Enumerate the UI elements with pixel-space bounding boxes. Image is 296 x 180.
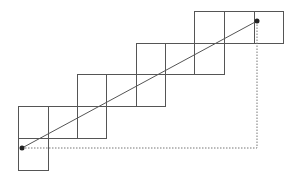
grid-cell <box>137 44 166 75</box>
grid-cell <box>137 75 166 107</box>
grid-cell <box>19 139 49 171</box>
grid-cell <box>195 44 225 75</box>
grid-cells <box>19 12 284 171</box>
grid-cell <box>225 12 255 44</box>
staircase-diagram <box>0 0 296 180</box>
grid-cell <box>78 75 107 107</box>
grid-cell <box>49 107 78 139</box>
grid-cell <box>78 107 107 139</box>
grid-cell <box>195 12 225 44</box>
grid-cell <box>255 12 284 44</box>
diagonal-line <box>22 21 257 148</box>
end-point <box>255 19 260 24</box>
grid-cell <box>107 75 137 107</box>
grid-cell <box>19 107 49 139</box>
grid-cell <box>166 44 195 75</box>
start-point <box>20 146 25 151</box>
